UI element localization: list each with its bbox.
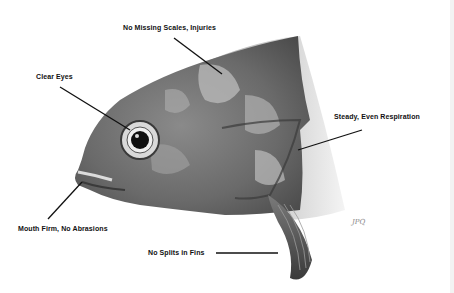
label-eyes: Clear Eyes <box>36 73 73 80</box>
label-fins: No Splits in Fins <box>148 249 205 256</box>
fish-diagram: No Missing Scales, Injuries Clear Eyes S… <box>0 0 454 293</box>
fish-illustration <box>0 0 454 293</box>
artist-signature: JPQ <box>352 218 365 226</box>
label-respiration: Steady, Even Respiration <box>334 113 420 120</box>
page-edge <box>450 0 454 293</box>
label-scales: No Missing Scales, Injuries <box>123 24 216 31</box>
label-mouth: Mouth Firm, No Abrasions <box>18 225 108 232</box>
